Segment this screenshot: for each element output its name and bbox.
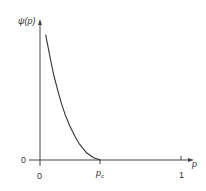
pc-label-sub: c <box>101 173 104 179</box>
x-one-label: 1 <box>179 171 184 180</box>
x-axis-label: p <box>192 160 197 169</box>
y-axis-label: ψ(p) <box>18 17 36 26</box>
psi-plot <box>0 0 206 191</box>
x-zero-label: 0 <box>37 172 42 181</box>
pc-label: pc <box>96 169 104 179</box>
psi-curve <box>46 35 101 160</box>
y-zero-label: 0 <box>21 156 26 165</box>
y-axis-arrow-icon <box>38 19 42 25</box>
